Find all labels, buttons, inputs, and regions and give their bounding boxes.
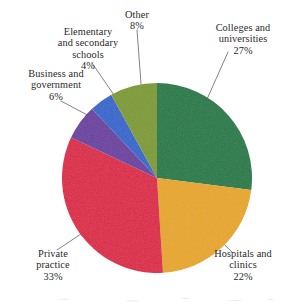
pie-label-business-line2: government (8, 79, 104, 90)
pie-label-hospitals-line1: Hospitals and (196, 248, 290, 259)
pie-label-other-text: Other (106, 9, 168, 20)
pie-label-elementary-line1: Elementary (36, 26, 140, 37)
pie-label-elementary-line2: and secondary (36, 37, 140, 48)
pie-label-business-line1: Business and (8, 68, 104, 79)
pie-label-business-and-government: Business and government 6% (8, 68, 104, 102)
pie-label-elementary-line3: schools (36, 49, 140, 60)
pie-label-hospitals-percent: 22% (196, 271, 290, 282)
pie-label-hospitals-and-clinics: Hospitals and clinics 22% (196, 248, 290, 282)
pie-label-private-line1: Private (20, 248, 86, 259)
pie-label-colleges-line2: universities (196, 33, 290, 44)
pie-label-private-percent: 33% (20, 271, 86, 282)
pie-chart-figure: Other 8% Elementary and secondary school… (0, 0, 294, 304)
pie-label-hospitals-line2: clinics (196, 259, 290, 270)
pie-label-colleges-line1: Colleges and (196, 22, 290, 33)
pie-slice-colleges-and-universities[interactable] (157, 83, 252, 190)
pie-label-private-line2: practice (20, 259, 86, 270)
pie-label-colleges-percent: 27% (196, 45, 290, 56)
pie-label-elementary-and-secondary-schools: Elementary and secondary schools 4% (36, 26, 140, 72)
pie-label-private-practice: Private practice 33% (20, 248, 86, 282)
pie-label-business-percent: 6% (8, 91, 104, 102)
pie-label-colleges-and-universities: Colleges and universities 27% (196, 22, 290, 56)
